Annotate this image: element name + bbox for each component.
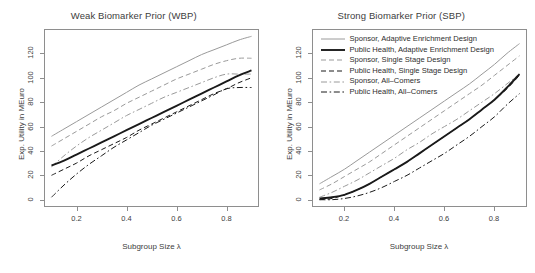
legend-label: Sponsor, Adaptive Enrichment Design: [350, 34, 477, 45]
series-line: [52, 58, 252, 146]
legend-item: Sponsor, All–Comers: [320, 76, 494, 87]
legend-label: Sponsor, Single Stage Design: [350, 55, 451, 66]
figure-container: Weak Biomarker Prior (WBP) Exp. Utility …: [0, 0, 535, 273]
legend-item: Public Health, Single Stage Design: [320, 66, 494, 77]
legend-line-key: [320, 45, 346, 55]
legend-label: Public Health, All–Comers: [350, 87, 438, 98]
legend-item: Sponsor, Single Stage Design: [320, 55, 494, 66]
legend-line-key: [320, 55, 346, 65]
legend-line-key: [320, 34, 346, 44]
legend-item: Public Health, All–Comers: [320, 87, 494, 98]
panel-strong-biomarker-prior: Strong Biomarker Prior (SBP) Exp. Utilit…: [268, 0, 535, 273]
legend-line-key: [320, 87, 346, 97]
legend-item: Sponsor, Adaptive Enrichment Design: [320, 34, 494, 45]
legend-line-key: [320, 77, 346, 87]
legend-label: Public Health, Adaptive Enrichment Desig…: [350, 45, 494, 56]
legend-label: Public Health, Single Stage Design: [350, 66, 468, 77]
series-line: [319, 94, 519, 200]
series-line: [52, 36, 252, 136]
series-line: [52, 78, 252, 176]
legend-line-key: [320, 66, 346, 76]
panel-weak-biomarker-prior: Weak Biomarker Prior (WBP) Exp. Utility …: [0, 0, 268, 273]
legend-item: Public Health, Adaptive Enrichment Desig…: [320, 45, 494, 56]
series-line: [52, 70, 252, 165]
curves-left: [0, 0, 268, 273]
chart-legend: Sponsor, Adaptive Enrichment DesignPubli…: [320, 34, 494, 98]
legend-label: Sponsor, All–Comers: [350, 76, 421, 87]
